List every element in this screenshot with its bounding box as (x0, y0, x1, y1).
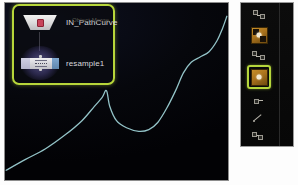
tool-shelf-divider (279, 3, 280, 146)
tool-textured-box[interactable] (247, 23, 271, 47)
node-display-flag[interactable] (52, 58, 59, 69)
tool-point-box[interactable] (247, 65, 271, 89)
node-objectmerge[interactable]: IN_PathCurve Object Merge (20, 15, 117, 30)
node-input-port[interactable] (20, 12, 60, 15)
tool-grid-points[interactable] (249, 127, 269, 145)
small-node-icon (252, 96, 266, 108)
tool-shelf[interactable] (240, 2, 294, 147)
tool-node-link[interactable] (249, 47, 269, 65)
selected-nodes-group[interactable]: IN_PathCurve Object Merge (12, 4, 115, 85)
node-resample-output-port[interactable] (20, 68, 60, 71)
node-link-icon (252, 50, 266, 62)
textured-box-icon (251, 27, 268, 44)
tool-line-segment[interactable] (249, 109, 269, 127)
node-objectmerge-type: Object Merge (72, 17, 109, 24)
node-flag-left (21, 58, 30, 69)
grid-points-icon (252, 130, 266, 142)
node-chain-icon (252, 10, 266, 22)
node-resample-input-port[interactable] (20, 55, 60, 58)
node-resample[interactable]: resample1 (20, 52, 104, 74)
network-viewport[interactable]: IN_PathCurve Object Merge (4, 2, 229, 181)
node-resample-label: resample1 (66, 59, 104, 68)
merge-glyph-icon (37, 19, 44, 27)
node-objectmerge-shape[interactable] (20, 15, 60, 30)
screenshot-root: IN_PathCurve Object Merge (0, 0, 298, 185)
resample-glyph-icon (35, 60, 47, 67)
node-resample-shape[interactable] (20, 52, 60, 74)
node-output-port[interactable] (20, 30, 60, 33)
line-segment-icon (252, 112, 266, 124)
point-box-icon (251, 69, 268, 86)
